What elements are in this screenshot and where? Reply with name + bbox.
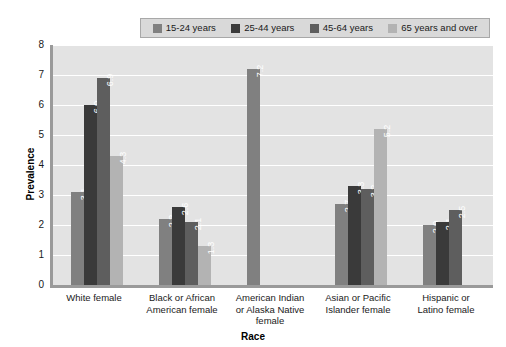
bar[interactable]: 3.3	[348, 186, 361, 285]
bar[interactable]: 2.5	[449, 210, 462, 285]
bar[interactable]: 3.1	[71, 192, 84, 285]
x-axis-category-label: American Indianor Alaska Nativefemale	[226, 292, 314, 327]
legend-item-65-over[interactable]: 65 years and over	[388, 23, 477, 33]
bar-group: 2.73.33.25.2	[317, 45, 405, 285]
bar[interactable]: 2.6	[172, 207, 185, 285]
y-axis-tick-label: 4	[24, 160, 44, 170]
y-axis-tick-label: 7	[24, 70, 44, 80]
bar-group: 3.16.06.94.3	[53, 45, 141, 285]
bar-group: 2.02.12.5	[405, 45, 493, 285]
legend-label-15-24: 15-24 years	[166, 23, 216, 33]
legend-item-45-64[interactable]: 45-64 years	[310, 23, 373, 33]
x-axis-category-label: White female	[50, 292, 138, 327]
y-axis-tick-label: 0	[24, 280, 44, 290]
x-axis-labels: White femaleBlack or AfricanAmerican fem…	[50, 292, 490, 327]
bar[interactable]: 2.1	[185, 222, 198, 285]
bar-group: 7.2	[229, 45, 317, 285]
bar[interactable]: 2.2	[159, 219, 172, 285]
y-axis-tick-label: 3	[24, 190, 44, 200]
bar-value-label: 2.6	[179, 203, 192, 216]
bar-groups: 3.16.06.94.32.22.62.11.37.22.73.33.25.22…	[53, 45, 493, 285]
legend-label-45-64: 45-64 years	[323, 23, 373, 33]
x-axis-category-label: Hispanic orLatino female	[402, 292, 490, 327]
bar-value-label: 6.9	[104, 74, 117, 87]
legend-swatch-45-64	[310, 24, 319, 33]
plot-area: 3.16.06.94.32.22.62.11.37.22.73.33.25.22…	[50, 45, 493, 288]
legend-swatch-15-24	[153, 24, 162, 33]
bar-value-label: 7.2	[254, 65, 267, 78]
bar[interactable]: 3.2	[361, 189, 374, 285]
y-axis-tick-label: 5	[24, 130, 44, 140]
bar-value-label: 2.5	[456, 206, 469, 219]
x-axis-category-label: Black or AfricanAmerican female	[138, 292, 226, 327]
bar[interactable]: 4.3	[110, 156, 123, 285]
y-axis-tick-label: 1	[24, 250, 44, 260]
legend-swatch-65-over	[388, 24, 397, 33]
bar[interactable]: 5.2	[374, 129, 387, 285]
legend-label-25-44: 25-44 years	[244, 23, 294, 33]
bar-value-label: 1.3	[205, 242, 218, 255]
bar[interactable]: 6.9	[97, 78, 110, 285]
y-axis-tick-label: 6	[24, 100, 44, 110]
x-axis-title: Race	[0, 331, 506, 342]
bar[interactable]: 1.3	[198, 246, 211, 285]
legend-item-25-44[interactable]: 25-44 years	[231, 23, 294, 33]
bar-group: 2.22.62.11.3	[141, 45, 229, 285]
bar[interactable]: 7.2	[247, 69, 260, 285]
plot-inner: 3.16.06.94.32.22.62.11.37.22.73.33.25.22…	[53, 45, 493, 285]
bar[interactable]: 6.0	[84, 105, 97, 285]
y-axis-tick-label: 8	[24, 40, 44, 50]
x-axis-category-label: Asian or PacificIslander female	[314, 292, 402, 327]
legend-swatch-25-44	[231, 24, 240, 33]
bar[interactable]: 2.0	[423, 225, 436, 285]
chart-figure: 15-24 years 25-44 years 45-64 years 65 y…	[0, 0, 506, 347]
y-axis-tick-label: 2	[24, 220, 44, 230]
bar-value-label: 2.1	[192, 218, 205, 231]
bar-value-label: 4.3	[117, 152, 130, 165]
legend-item-15-24[interactable]: 15-24 years	[153, 23, 216, 33]
bar[interactable]: 2.1	[436, 222, 449, 285]
bar[interactable]: 2.7	[335, 204, 348, 285]
legend-label-65-over: 65 years and over	[401, 23, 477, 33]
bar-value-label: 5.2	[381, 125, 394, 138]
chart-legend: 15-24 years 25-44 years 45-64 years 65 y…	[140, 18, 490, 38]
